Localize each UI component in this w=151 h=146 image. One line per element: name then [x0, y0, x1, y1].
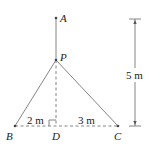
- point-C: [117, 125, 120, 128]
- label-A: A: [59, 12, 67, 24]
- label-P: P: [59, 51, 67, 63]
- dimension-BD: 2 m: [27, 114, 44, 126]
- point-P: [55, 59, 58, 62]
- arrowhead-up-icon: [133, 20, 136, 24]
- arrowhead-down-icon: [133, 121, 136, 125]
- label-B: B: [6, 130, 13, 142]
- label-C: C: [114, 130, 122, 142]
- right-angle-marker: [49, 120, 56, 126]
- point-A: [55, 17, 58, 20]
- point-B: [14, 125, 17, 128]
- dimension-DC: 3 m: [78, 114, 95, 126]
- label-D: D: [51, 130, 60, 142]
- diagram-canvas: A P B D C 2 m 3 m 5 m: [0, 0, 151, 146]
- dimension-height: 5 m: [126, 69, 143, 81]
